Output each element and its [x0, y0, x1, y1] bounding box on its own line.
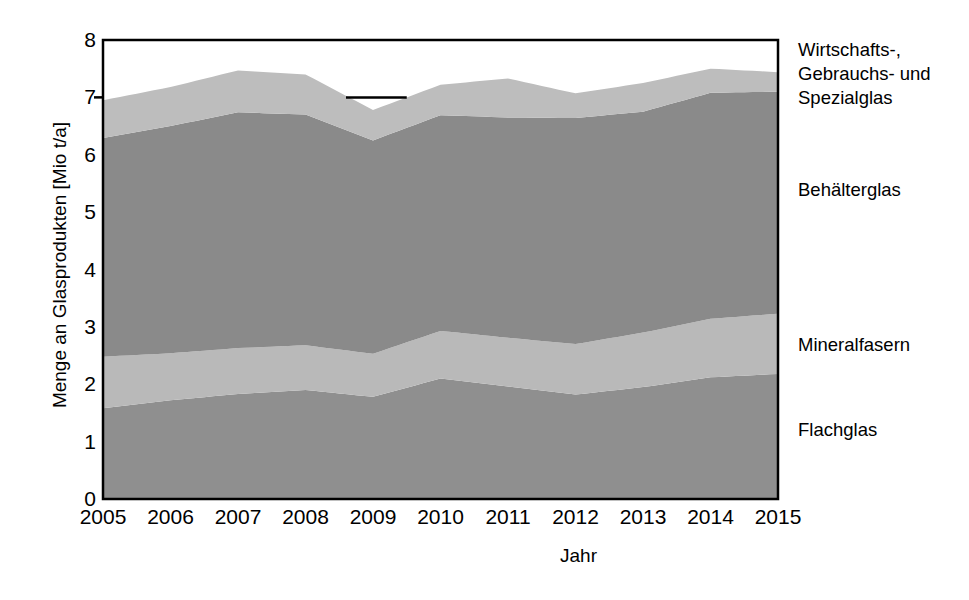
legend-item-2: Behälterglas	[798, 178, 901, 202]
x-axis-tick-label: 2008	[271, 505, 341, 529]
x-axis-tick-label: 2009	[338, 505, 408, 529]
x-axis-tick-label: 2007	[203, 505, 273, 529]
area-series-3	[103, 92, 778, 357]
y-axis-tick-label: 3	[70, 316, 96, 337]
x-axis-tick-label: 2015	[743, 505, 813, 529]
y-axis-tick-label: 8	[70, 29, 96, 50]
legend-item-1: Wirtschafts-, Gebrauchs- und Spezialglas	[798, 38, 931, 110]
legend-item-4: Flachglas	[798, 418, 877, 442]
stacked-area-chart: Menge an Glasprodukten [Mio t/a] 0123456…	[0, 0, 969, 600]
x-axis-tick-label: 2010	[406, 505, 476, 529]
legend-item-3: Mineralfasern	[798, 333, 910, 357]
y-axis-tick-label: 6	[70, 144, 96, 165]
y-axis-tick-label: 5	[70, 201, 96, 222]
y-axis-tick-label: 2	[70, 373, 96, 394]
y-axis-tick-label: 7	[70, 86, 96, 107]
x-axis-tick-label: 2011	[473, 505, 543, 529]
x-axis-title: Jahr	[560, 545, 597, 567]
y-axis-tick-label: 4	[70, 259, 96, 280]
y-axis-tick-label: 1	[70, 431, 96, 452]
x-axis-tick-label: 2005	[68, 505, 138, 529]
x-axis-tick-label: 2006	[136, 505, 206, 529]
x-axis-tick-label: 2014	[676, 505, 746, 529]
x-axis-tick-label: 2013	[608, 505, 678, 529]
x-axis-tick-label: 2012	[541, 505, 611, 529]
